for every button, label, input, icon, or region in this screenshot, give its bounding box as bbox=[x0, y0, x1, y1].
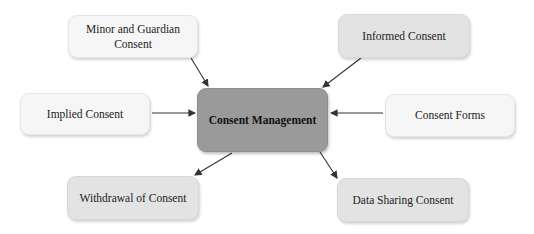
arrow-minor-to-center bbox=[191, 58, 208, 86]
node-minor-guardian-consent: Minor and Guardian Consent bbox=[68, 15, 198, 58]
node-implied-consent: Implied Consent bbox=[20, 93, 150, 135]
node-label: Data Sharing Consent bbox=[353, 193, 454, 208]
node-label: Implied Consent bbox=[47, 107, 123, 122]
node-withdrawal-of-consent: Withdrawal of Consent bbox=[67, 176, 199, 220]
node-label: Withdrawal of Consent bbox=[80, 191, 187, 206]
node-consent-forms: Consent Forms bbox=[385, 94, 515, 137]
node-consent-management: Consent Management bbox=[197, 88, 328, 152]
node-informed-consent: Informed Consent bbox=[338, 14, 470, 58]
node-label: Minor and Guardian Consent bbox=[69, 22, 197, 52]
arrow-informed-to-center bbox=[323, 58, 361, 87]
arrow-center-to-sharing bbox=[320, 152, 337, 178]
arrow-center-to-withdrawal bbox=[195, 153, 232, 175]
node-label: Informed Consent bbox=[362, 29, 445, 44]
node-data-sharing-consent: Data Sharing Consent bbox=[337, 178, 469, 222]
center-label: Consent Management bbox=[209, 113, 317, 128]
node-label: Consent Forms bbox=[415, 108, 485, 123]
